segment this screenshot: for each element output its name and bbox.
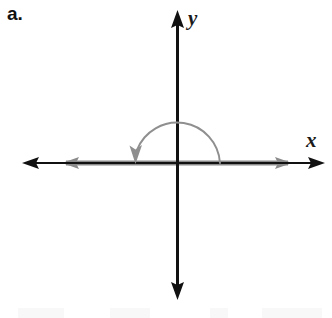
- scan-artifact-left: [18, 308, 64, 318]
- angle-diagram-figure: a. y x: [0, 0, 332, 318]
- coordinate-plane-svg: [0, 0, 332, 318]
- y-axis-label: y: [188, 8, 197, 29]
- scan-artifact-center: [110, 308, 150, 318]
- rotation-arc-group: [130, 123, 221, 164]
- scan-artifact-right: [262, 308, 322, 318]
- y-axis-group: [171, 10, 184, 300]
- scan-artifact-right-inner: [210, 308, 228, 318]
- x-axis-label: x: [306, 130, 317, 151]
